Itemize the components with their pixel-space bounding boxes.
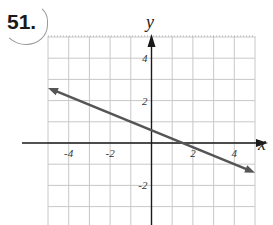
x-axis-label: x bbox=[257, 134, 266, 154]
coordinate-plane: xy -4-22442-2 bbox=[0, 0, 273, 225]
y-axis-label: y bbox=[144, 12, 154, 32]
x-tick-label: 4 bbox=[232, 147, 238, 159]
line-arrowhead-right-icon bbox=[244, 165, 255, 172]
y-tick-label: -2 bbox=[138, 179, 148, 191]
y-tick-label: 2 bbox=[142, 95, 148, 107]
y-axis-arrow-icon bbox=[148, 34, 156, 47]
axes: xy bbox=[22, 12, 268, 225]
x-tick-label: -2 bbox=[106, 147, 116, 159]
x-tick-label: -4 bbox=[64, 147, 74, 159]
line-arrowhead-left-icon bbox=[48, 88, 59, 95]
y-tick-label: 4 bbox=[142, 52, 148, 64]
